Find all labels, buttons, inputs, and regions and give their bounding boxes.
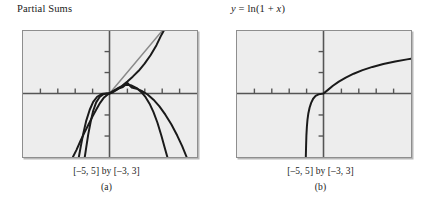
panel-a-plot xyxy=(23,31,197,157)
panel-a-title: Partial Sums xyxy=(17,3,72,14)
panel-a-plot-frame xyxy=(22,30,198,158)
textbook-figure: Partial Sums xyxy=(0,0,427,209)
panel-b-title-operator: = ln(1 + xyxy=(236,3,277,14)
panel-b-letter-caption: (b) xyxy=(214,182,427,192)
panel-b-plot xyxy=(237,31,411,157)
panel-a-range-caption: [–5, 5] by [–3, 3] xyxy=(0,166,213,176)
panel-b-plot-frame xyxy=(236,30,412,158)
figure-panel-b: y = ln(1 + x) xyxy=(214,0,427,209)
panel-b-range-caption: [–5, 5] by [–3, 3] xyxy=(214,166,427,176)
panel-a-letter-caption: (a) xyxy=(0,182,213,192)
panel-b-title: y = ln(1 + x) xyxy=(231,3,285,14)
figure-panel-a: Partial Sums xyxy=(0,0,213,209)
panel-b-title-close: ) xyxy=(281,3,285,14)
